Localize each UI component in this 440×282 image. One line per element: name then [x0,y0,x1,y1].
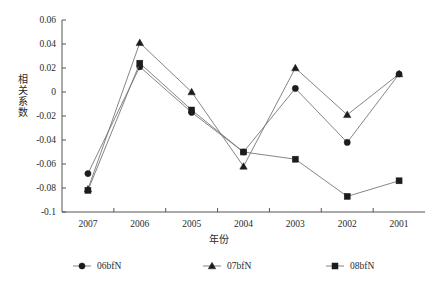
data-point-triangle [136,39,143,46]
series-08bfN [85,60,402,199]
data-point-square [344,193,350,199]
series-07bfN [84,39,403,192]
data-point-triangle [240,163,247,170]
legend-label: 07bfN [227,261,251,271]
legend-item-06bfN[interactable]: 06bfN [73,261,121,271]
legend-item-07bfN[interactable]: 07bfN [203,261,251,271]
y-axis-tick-label: 0.04 [39,39,56,49]
x-axis-tick-label: 2002 [338,219,357,229]
legend-label: 06bfN [97,261,121,271]
data-point-triangle [292,64,299,71]
x-axis-tick-label: 2005 [182,219,201,229]
data-point-square [332,263,338,269]
y-axis-tick-label: -0.1 [41,207,56,217]
y-axis-tick-label: -0.06 [36,159,56,169]
y-axis-tick-label: -0.02 [36,111,56,121]
series-group [84,39,403,199]
data-point-square [189,107,195,113]
data-point-circle [292,85,298,91]
x-axis-tick-label: 2007 [78,219,97,229]
x-axis-tick-label: 2003 [286,219,305,229]
data-point-square [85,187,91,193]
data-point-square [292,156,298,162]
data-point-circle [79,263,85,269]
series-line [88,63,399,196]
x-axis-tick-group: 2007200620052004200320022001 [78,208,408,229]
y-axis-tick-label: 0.02 [39,63,56,73]
y-axis-tick-label: 0 [51,87,56,97]
x-axis-title: 年份 [209,233,229,245]
chart-container: 相 关 系 数 0.060.040.020-0.02-0.04-0.06-0.0… [0,0,440,282]
data-point-square [396,178,402,184]
data-point-square [241,149,247,155]
series-line [88,67,399,174]
x-axis-tick-label: 2004 [234,219,253,229]
x-axis-tick-label: 2001 [390,219,409,229]
chart-legend: 06bfN07bfN08bfN [73,261,374,271]
legend-label: 08bfN [350,261,374,271]
data-point-circle [85,171,91,177]
line-chart: 0.060.040.020-0.02-0.04-0.06-0.08-0.1 20… [0,0,440,282]
data-point-square [137,60,143,66]
data-point-circle [344,139,350,145]
y-axis-tick-label: 0.06 [39,15,56,25]
y-axis-tick-label: -0.08 [36,183,56,193]
legend-item-08bfN[interactable]: 08bfN [326,261,374,271]
x-axis-tick-label: 2006 [130,219,149,229]
y-axis-tick-label: -0.04 [36,135,56,145]
